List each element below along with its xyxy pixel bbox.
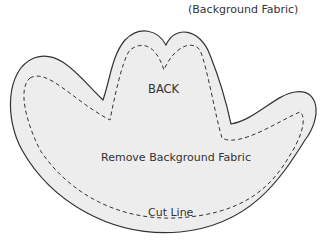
instruction-label: Remove Background Fabric: [101, 151, 251, 164]
background-fabric-label: (Background Fabric): [188, 3, 298, 16]
pattern-outline: [10, 31, 316, 233]
cut-line-label: Cut Line: [148, 206, 193, 219]
piece-name-label: BACK: [148, 82, 179, 96]
